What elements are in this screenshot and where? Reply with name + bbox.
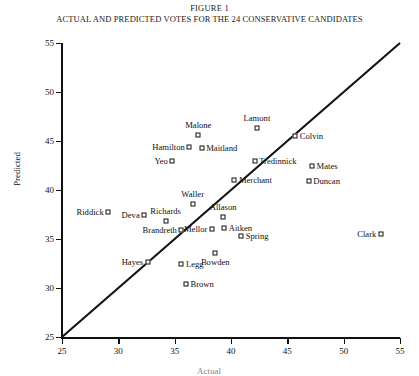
y-tick-mark bbox=[56, 190, 62, 191]
y-tick-label: 40 bbox=[45, 185, 54, 195]
x-tick-label: 55 bbox=[396, 346, 405, 356]
y-tick-mark bbox=[56, 92, 62, 93]
data-point-label: Bowden bbox=[201, 258, 230, 267]
data-point-label: Hayes bbox=[122, 257, 143, 266]
x-tick-mark bbox=[118, 338, 119, 344]
data-point-label: Tredinnick bbox=[259, 156, 296, 165]
y-tick-mark bbox=[56, 288, 62, 289]
figure-caption: ACTUAL AND PREDICTED VOTES FOR THE 24 CO… bbox=[0, 14, 419, 25]
data-point-label: Richards bbox=[150, 207, 181, 216]
data-point-label: Allason bbox=[210, 203, 237, 212]
data-point-marker bbox=[106, 209, 111, 214]
data-point-label: Mellor bbox=[184, 225, 207, 234]
data-point-marker bbox=[170, 158, 175, 163]
data-point-label: Hamilton bbox=[152, 142, 184, 151]
x-tick-label: 35 bbox=[170, 346, 179, 356]
y-tick-label: 55 bbox=[45, 38, 54, 48]
data-point-marker bbox=[254, 126, 259, 131]
x-tick-mark bbox=[344, 338, 345, 344]
x-tick-label: 25 bbox=[58, 346, 67, 356]
data-point-label: Waller bbox=[181, 190, 204, 199]
data-point-label: Colvin bbox=[300, 132, 323, 141]
y-axis-title: Predicted bbox=[12, 152, 22, 186]
x-tick-label: 30 bbox=[114, 346, 123, 356]
data-point-marker bbox=[142, 213, 147, 218]
x-tick-label: 40 bbox=[227, 346, 236, 356]
data-point-label: Mates bbox=[317, 162, 338, 171]
data-point-marker bbox=[187, 144, 192, 149]
data-point-marker bbox=[221, 215, 226, 220]
y-tick-label: 45 bbox=[45, 136, 54, 146]
data-point-label: Brandreth bbox=[143, 226, 177, 235]
data-point-label: Deva bbox=[122, 211, 140, 220]
x-tick-mark bbox=[231, 338, 232, 344]
data-point-label: Clark bbox=[357, 230, 376, 239]
x-tick-label: 50 bbox=[339, 346, 348, 356]
data-point-label: Duncan bbox=[313, 177, 340, 186]
data-point-marker bbox=[310, 164, 315, 169]
data-point-marker bbox=[239, 234, 244, 239]
data-point-marker bbox=[213, 250, 218, 255]
data-point-marker bbox=[145, 259, 150, 264]
figure-page: FIGURE 1 ACTUAL AND PREDICTED VOTES FOR … bbox=[0, 0, 419, 376]
data-point-marker bbox=[163, 219, 168, 224]
y-tick-label: 50 bbox=[45, 87, 54, 97]
data-point-label: Maitland bbox=[206, 143, 237, 152]
x-axis-title: Actual bbox=[197, 366, 221, 376]
x-tick-mark bbox=[62, 338, 63, 344]
data-point-marker bbox=[209, 227, 214, 232]
y-tick-label: 35 bbox=[45, 234, 54, 244]
data-point-label: Merchant bbox=[239, 176, 272, 185]
data-point-label: Brown bbox=[190, 280, 213, 289]
data-point-marker bbox=[293, 134, 298, 139]
data-point-label: Malone bbox=[185, 121, 211, 130]
y-tick-mark bbox=[56, 239, 62, 240]
data-point-label: Lamont bbox=[244, 114, 271, 123]
data-point-marker bbox=[378, 232, 383, 237]
x-tick-mark bbox=[287, 338, 288, 344]
data-point-marker bbox=[199, 145, 204, 150]
data-point-marker bbox=[306, 179, 311, 184]
data-point-label: Spring bbox=[246, 232, 269, 241]
x-tick-mark bbox=[175, 338, 176, 344]
data-point-marker bbox=[183, 282, 188, 287]
y-tick-label: 25 bbox=[45, 332, 54, 342]
y-tick-mark bbox=[56, 43, 62, 44]
data-point-marker bbox=[179, 262, 184, 267]
data-point-marker bbox=[196, 133, 201, 138]
y-tick-label: 30 bbox=[45, 283, 54, 293]
scatter-plot-area: 25303540455055 25303540455055 RiddickDev… bbox=[62, 43, 400, 337]
data-point-marker bbox=[222, 226, 227, 231]
x-tick-mark bbox=[400, 338, 401, 344]
data-point-label: Riddick bbox=[76, 207, 103, 216]
data-point-label: Yeo bbox=[154, 156, 167, 165]
data-point-marker bbox=[252, 158, 257, 163]
data-point-marker bbox=[232, 178, 237, 183]
data-point-marker bbox=[190, 201, 195, 206]
identity-reference-line bbox=[62, 43, 400, 337]
figure-number: FIGURE 1 bbox=[0, 3, 419, 14]
x-tick-label: 45 bbox=[283, 346, 292, 356]
y-tick-mark bbox=[56, 141, 62, 142]
